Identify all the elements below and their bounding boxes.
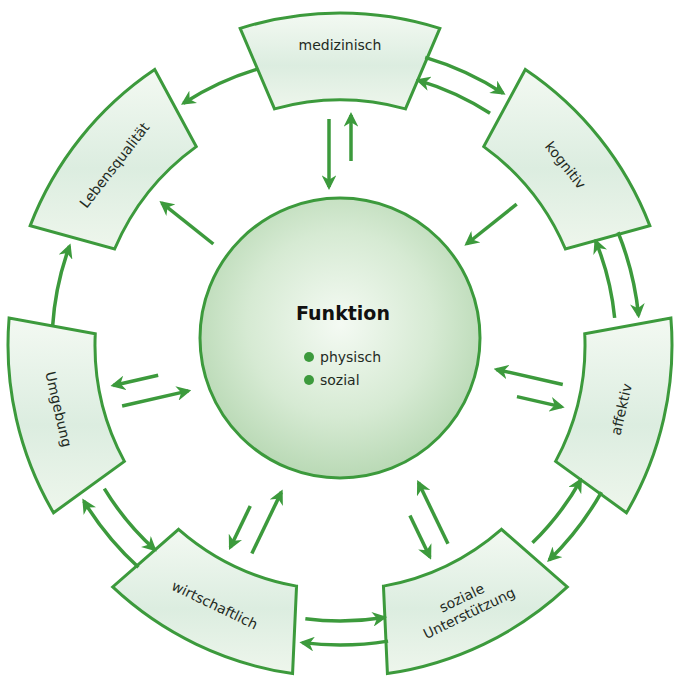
segment-kognitiv: kognitiv <box>484 70 650 249</box>
arrow-icon <box>183 69 258 103</box>
arrow-to-center-icon <box>467 204 517 244</box>
center-arrow-soziale-unterstuetzung <box>410 483 448 557</box>
segment-affektiv: affektiv <box>556 318 672 513</box>
center-arrow-kognitiv <box>467 204 517 244</box>
segment-shape <box>240 13 440 109</box>
arrow-to-segment-icon <box>230 506 250 547</box>
arrow-to-segment-icon <box>113 375 158 385</box>
center-arrow-lebensqualitaet <box>162 203 214 244</box>
arrow-back-icon <box>596 241 615 318</box>
arrow-to-center-icon <box>418 483 448 544</box>
arrow-forward-icon <box>618 232 639 315</box>
arrow-to-center-icon <box>496 369 562 384</box>
center-item-physisch: physisch <box>320 349 381 365</box>
arrow-to-center-icon <box>252 492 282 553</box>
segment-wirtschaftlich: wirtschaftlich <box>113 529 297 673</box>
segment-umgebung: Umgebung <box>8 318 124 513</box>
arrow-back-icon <box>305 617 384 621</box>
center-item-sozial: sozial <box>320 372 360 388</box>
center-arrow-umgebung <box>113 375 188 406</box>
center-arrow-wirtschaftlich <box>230 492 281 553</box>
bullet-icon <box>304 375 314 385</box>
arrow-to-segment-icon <box>410 516 430 557</box>
ring-arrow-soziale-unterstuetzung-wirtschaftlich <box>302 617 388 645</box>
segment-medizinisch: medizinisch <box>240 13 440 109</box>
arrow-icon <box>53 246 70 327</box>
arrow-to-segment-icon <box>162 203 214 244</box>
bullet-icon <box>304 352 314 362</box>
segment-lebensqualitaet: Lebensqualität <box>30 70 196 249</box>
arrow-forward-icon <box>84 501 139 567</box>
segment-soziale-unterstuetzung: sozialeUnterstützung <box>383 529 567 673</box>
ring-arrow-medizinisch-lebensqualitaet <box>183 69 258 103</box>
ring-arrow-affektiv-soziale-unterstuetzung <box>532 480 601 560</box>
center-arrow-medizinisch <box>329 115 351 187</box>
segment-label-medizinisch: medizinisch <box>299 37 382 53</box>
ring-arrow-umgebung-lebensqualitaet <box>53 246 70 327</box>
ring-arrow-kognitiv-affektiv <box>596 232 639 318</box>
center-arrow-affektiv <box>496 369 562 406</box>
arrow-forward-icon <box>302 641 388 645</box>
ring-arrow-medizinisch-kognitiv <box>418 57 503 113</box>
center-circle <box>200 198 480 478</box>
ring-arrow-wirtschaftlich-umgebung <box>84 489 155 568</box>
arrow-to-segment-icon <box>517 397 562 407</box>
center-title: Funktion <box>296 302 390 324</box>
arrow-to-center-icon <box>122 391 188 406</box>
center-node-funktion: Funktion physisch sozial <box>200 198 480 478</box>
funktion-diagram: medizinischkognitivaffektivsozialeUnters… <box>0 0 679 678</box>
arrow-forward-icon <box>549 492 601 560</box>
arrow-back-icon <box>418 80 490 113</box>
